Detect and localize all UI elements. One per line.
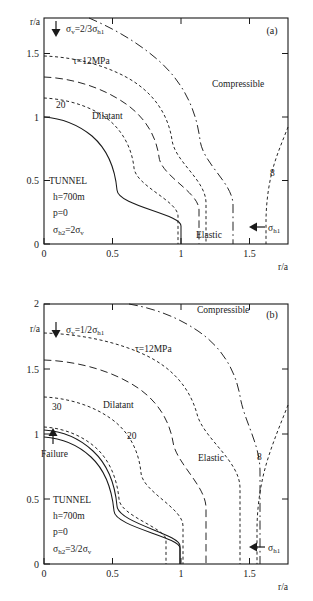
y-ticks-b [44,304,288,564]
y-tick-label-1-b: 0.5 [27,494,40,505]
tau-label-b: τ=12MPa [135,344,172,354]
curve-label-20-a: 20 [56,100,66,110]
panel-b-svg: 0 0.5 1 1.5 0 0.5 1 1.5 2 r/a r/a (b) [0,296,313,601]
y-axis-title-b: r/a [30,324,41,334]
x-tick-label-0-b: 0 [42,568,47,579]
x-ticks-a [44,18,250,244]
y-tick-label-0-a: 0 [34,239,39,250]
region-label-dilatant-b: Dilatant [103,400,134,410]
curve-label-20-b: 20 [127,431,137,441]
panel-label-a: (a) [266,25,277,37]
curve-tau12-inner-a [44,77,199,244]
header-annotation-b: σv=1/2σh1 [66,325,105,337]
x-tick-label-2-a: 1 [179,248,184,259]
curve-tau12-outer-a [44,56,206,244]
panel-label-b: (b) [266,309,278,321]
x-tick-label-1-a: 0.5 [106,248,119,259]
curves-a [44,18,288,244]
info-depth-a: h=700m [53,192,85,202]
sigma-h1-arrow-a [249,223,265,232]
x-tick-label-1-b: 0.5 [106,568,119,579]
plot-frame-b [44,304,288,564]
sigma-v-arrow-b [52,322,61,338]
x-tick-label-2-b: 1 [179,568,184,579]
region-label-compressible-b: Compressible [197,305,249,315]
panel-a-svg: 0 0.5 1 1.5 0 0.5 1 1.5 r/a r/a (a) [0,0,313,290]
curve-label-8-b: 8 [257,452,262,462]
region-label-elastic-a: Elastic [196,230,222,240]
curves-b [44,304,288,564]
y-tick-label-3-b: 1.5 [27,364,40,375]
panel-b: 0 0.5 1 1.5 0 0.5 1 1.5 2 r/a r/a (b) [0,296,313,601]
sigma-v-arrow-a [52,21,61,37]
x-tick-label-3-b: 1.5 [243,568,256,579]
info-tunnel-a: TUNNEL [49,176,87,186]
y-tick-label-3-a: 1.5 [27,48,40,59]
info-depth-b: h=700m [53,511,85,521]
sigma-h1-label-b: σh1 [268,543,281,555]
info-stress-ratio-b: σh2=3/2σv [53,544,92,556]
y-tick-label-0-b: 0 [34,559,39,570]
region-label-dilatant-a: Dilatant [92,111,123,121]
y-tick-label-2-b: 1 [34,429,39,440]
tau-label-a: τ=12MPa [73,56,110,66]
y-axis-title-a: r/a [30,17,41,27]
region-label-compressible-a: Compressible [212,79,264,89]
y-tick-label-1-a: 0.5 [27,175,40,186]
panel-a: 0 0.5 1 1.5 0 0.5 1 1.5 r/a r/a (a) [0,0,313,290]
curve-dilatant-b [44,360,206,564]
sigma-h1-arrow-b [249,543,265,552]
info-pressure-b: p=0 [53,527,68,537]
x-axis-title-a: r/a [278,262,289,272]
curve-label-30-b: 30 [52,402,62,412]
x-ticks-b [44,304,250,564]
figure-container: 0 0.5 1 1.5 0 0.5 1 1.5 r/a r/a (a) [0,0,313,601]
info-stress-ratio-a: σh2=2σv [53,225,84,237]
sigma-h1-label-a: σh1 [268,223,281,235]
x-tick-label-3-a: 1.5 [243,248,256,259]
failure-label-b: Failure [41,449,68,459]
info-pressure-a: p=0 [53,208,68,218]
panel-b-plot: 0 0.5 1 1.5 0 0.5 1 1.5 2 r/a r/a (b) [27,298,289,592]
region-label-elastic-b: Elastic [198,453,224,463]
curve-8-b [257,405,288,564]
y-tick-label-4-b: 2 [34,298,39,309]
curve-label-8-a: 8 [270,168,275,178]
curve-20-b [44,397,183,564]
curve-compressible-a [89,18,233,244]
info-tunnel-b: TUNNEL [53,495,91,505]
y-tick-label-2-a: 1 [34,112,39,123]
plot-frame-a [44,18,288,244]
panel-a-plot: 0 0.5 1 1.5 0 0.5 1 1.5 r/a r/a (a) [27,17,289,272]
header-annotation-a: σv=2/3σh1 [66,24,105,36]
x-tick-label-0-a: 0 [42,248,47,259]
x-axis-title-b: r/a [278,582,289,592]
